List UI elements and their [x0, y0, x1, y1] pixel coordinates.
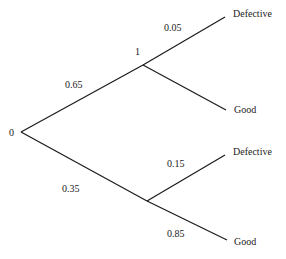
outcome-lower-good: Good: [234, 236, 256, 247]
node-label-upper: 1: [135, 46, 140, 57]
outcome-lower-defective: Defective: [233, 146, 272, 157]
probability-lower-good: 0.85: [167, 228, 185, 239]
branch-root-upper: [21, 65, 143, 132]
root-node-label: 0: [9, 127, 14, 138]
branch-labels: 0 1 0.65 0.35 0.05 0.15 0.85 Defective G…: [9, 8, 272, 247]
probability-lower-defective: 0.15: [167, 158, 185, 169]
probability-root-upper: 0.65: [65, 79, 83, 90]
outcome-upper-good: Good: [234, 104, 256, 115]
branch-lower-good: [147, 201, 227, 240]
branch-root-lower: [21, 132, 147, 201]
probability-root-lower: 0.35: [62, 183, 80, 194]
outcome-upper-defective: Defective: [233, 8, 272, 19]
probability-tree-diagram: 0 1 0.65 0.35 0.05 0.15 0.85 Defective G…: [0, 0, 286, 259]
branch-upper-defective: [143, 17, 225, 65]
branch-upper-good: [143, 65, 226, 110]
probability-upper-defective: 0.05: [164, 22, 182, 33]
branch-lower-defective: [147, 155, 225, 201]
branch-lines: [21, 17, 227, 240]
